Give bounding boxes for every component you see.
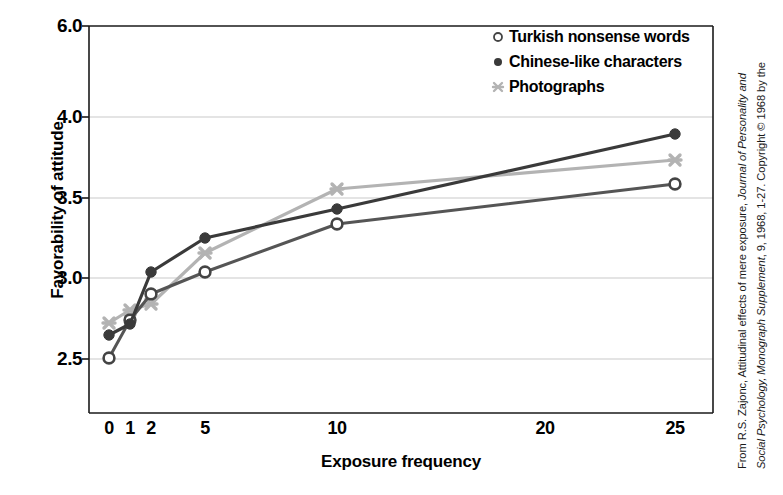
credit-line-1: From R.S. Zajonc, Attitudinal effects of… [733,0,752,469]
legend-item-turkish: Turkish nonsense words [487,24,717,49]
gridlines [89,117,713,359]
credit-text-2: , 9, 1968, 1-27. Copyright © 1968 by the [755,62,767,257]
x-tick-label-5: 5 [200,418,210,439]
series-chinese-like-characters [104,129,680,340]
series-markers-photographs [103,155,681,328]
filled-circle-marker-icon [487,55,509,69]
series-markers-turkish [104,179,681,364]
x-axis-title: Exposure frequency [89,452,713,472]
series-line-turkish [109,184,675,358]
x-tick-label-25: 25 [665,418,684,439]
credit-italic-2: Social Psychology, Monograph Supplement [755,257,767,469]
x-tick-label-1: 1 [125,418,135,439]
chart-legend: Turkish nonsense words Chinese-like char… [487,24,717,99]
x-tick-label-20: 20 [535,418,554,439]
legend-item-photographs: Photographs [487,74,717,99]
open-circle-marker-icon [487,30,509,44]
series-photographs [103,155,681,328]
y-tick-marks [82,26,89,359]
series-line-chinese [109,134,675,335]
cross-marker-icon [487,80,509,94]
legend-label-turkish: Turkish nonsense words [509,28,690,46]
series-line-photographs [109,160,675,323]
source-credit: From R.S. Zajonc, Attitudinal effects of… [722,0,783,495]
legend-item-chinese: Chinese-like characters [487,49,717,74]
credit-line-2: Social Psychology, Monograph Supplement,… [752,0,771,469]
figure-container: Favorability of attitude 6.0 4.0 3.5 3.0… [0,0,783,495]
legend-label-chinese: Chinese-like characters [509,53,682,71]
credit-italic-1: Journal of Personality and [736,73,748,200]
series-turkish-nonsense-words [104,179,681,364]
x-tick-label-0: 0 [104,418,114,439]
legend-label-photographs: Photographs [509,78,604,96]
x-tick-label-10: 10 [327,418,346,439]
x-tick-label-2: 2 [146,418,156,439]
credit-text-1: From R.S. Zajonc, Attitudinal effects of… [736,200,748,469]
series-markers-chinese [104,129,680,340]
